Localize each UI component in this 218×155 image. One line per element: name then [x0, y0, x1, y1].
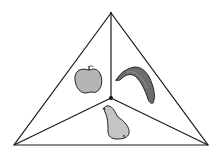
triangle-diagram	[0, 0, 218, 155]
banana-icon	[116, 67, 154, 103]
apple-icon	[75, 66, 102, 93]
diagram-canvas	[0, 0, 218, 155]
apex-point	[110, 12, 112, 14]
center-point	[109, 96, 113, 100]
spoke-left	[14, 98, 111, 145]
pear-icon	[103, 106, 129, 139]
